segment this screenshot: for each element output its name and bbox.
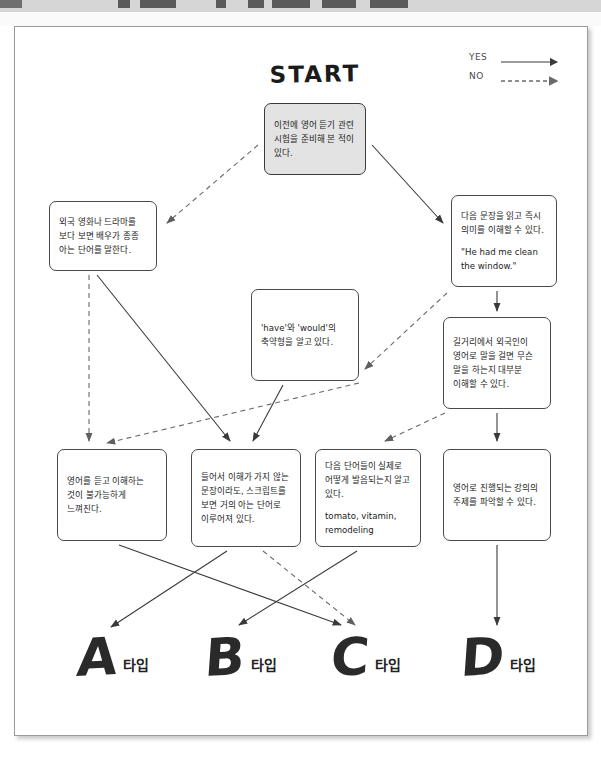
result-type-a[interactable]: A 타입 bbox=[77, 631, 149, 683]
result-label-b: 타입 bbox=[251, 640, 277, 674]
result-label-d: 타입 bbox=[510, 640, 536, 674]
result-type-c[interactable]: C 타입 bbox=[331, 631, 401, 683]
header-bar-fragment bbox=[118, 0, 130, 8]
header-bar-fragment bbox=[370, 0, 408, 8]
header-bar-fragment bbox=[216, 0, 226, 8]
node-impossible[interactable]: 영어를 듣고 이해하는 것이 불가능하게 느껴진다. bbox=[57, 449, 167, 541]
result-type-d[interactable]: D 타입 bbox=[461, 631, 536, 683]
node-pronunciation-text: 다음 단어들이 실제로 어떻게 발음되는지 알고 있다. bbox=[325, 459, 411, 502]
node-start-question[interactable]: 이전에 영어 듣기 관련 시험을 준비해 본 적이 있다. bbox=[264, 103, 366, 175]
header-bar-fragment bbox=[322, 0, 356, 8]
result-label-a: 타입 bbox=[123, 640, 149, 674]
node-movie-text: 외국 영화나 드라마를 보다 보면 배우가 종종 아는 단어를 말한다. bbox=[59, 215, 147, 258]
node-read-sentence[interactable]: 다음 문장을 읽고 즉시 의미를 이해할 수 있다. "He had me cl… bbox=[451, 195, 557, 287]
node-lecture-text: 영어로 진행되는 강의의 주제를 파악할 수 있다. bbox=[453, 481, 541, 509]
node-read-text: 다음 문장을 읽고 즉시 의미를 이해할 수 있다. bbox=[461, 209, 547, 237]
node-start-text: 이전에 영어 듣기 관련 시험을 준비해 본 적이 있다. bbox=[274, 118, 356, 161]
node-read-example: "He had me clean the window." bbox=[461, 245, 547, 273]
result-letter-a: A bbox=[75, 630, 117, 684]
dashed-arrow-icon bbox=[499, 71, 577, 81]
node-street-text: 길거리에서 외국인이 영어로 말을 걸면 무슨 말을 하는지 대부분 이해할 수… bbox=[453, 335, 541, 392]
node-movie-drama[interactable]: 외국 영화나 드라마를 보다 보면 배우가 종종 아는 단어를 말한다. bbox=[49, 201, 157, 271]
legend-item-no: NO bbox=[469, 66, 577, 85]
legend-item-yes: YES bbox=[469, 47, 577, 66]
node-script-text: 들어서 이해가 가지 않는 문장이라도, 스크립트를 보면 거의 아는 단어로 … bbox=[201, 470, 291, 527]
result-letter-c: C bbox=[329, 630, 369, 684]
node-script-words[interactable]: 들어서 이해가 가지 않는 문장이라도, 스크립트를 보면 거의 아는 단어로 … bbox=[191, 449, 301, 547]
node-contraction[interactable]: 'have'와 'would'의 축약형을 알고 있다. bbox=[251, 289, 359, 381]
legend-label-no: NO bbox=[469, 71, 499, 81]
result-type-b[interactable]: B 타입 bbox=[205, 631, 277, 683]
node-impossible-text: 영어를 듣고 이해하는 것이 불가능하게 느껴진다. bbox=[67, 474, 157, 517]
node-pronunciation[interactable]: 다음 단어들이 실제로 어떻게 발음되는지 알고 있다. tomato, vit… bbox=[315, 449, 421, 547]
result-letter-b: B bbox=[203, 630, 244, 684]
legend-label-yes: YES bbox=[469, 52, 499, 62]
flowchart-page: YES NO bbox=[14, 26, 588, 736]
solid-arrow-icon bbox=[499, 52, 577, 62]
header-bar-fragment bbox=[272, 0, 310, 8]
result-label-c: 타입 bbox=[375, 640, 401, 674]
node-pronunciation-examples: tomato, vitamin, remodeling bbox=[325, 509, 411, 537]
header-bar-fragment bbox=[140, 0, 176, 8]
cropped-header-bar bbox=[0, 0, 601, 12]
legend: YES NO bbox=[469, 47, 577, 85]
header-bar-fragment bbox=[248, 0, 264, 8]
node-lecture-topic[interactable]: 영어로 진행되는 강의의 주제를 파악할 수 있다. bbox=[443, 449, 551, 541]
node-street-conversation[interactable]: 길거리에서 외국인이 영어로 말을 걸면 무슨 말을 하는지 대부분 이해할 수… bbox=[443, 317, 551, 409]
result-letter-d: D bbox=[459, 630, 504, 684]
page-background bbox=[0, 12, 601, 26]
header-bar-fragment bbox=[0, 0, 22, 8]
page-title: START bbox=[255, 60, 375, 88]
node-contraction-text: 'have'와 'would'의 축약형을 알고 있다. bbox=[261, 321, 349, 349]
